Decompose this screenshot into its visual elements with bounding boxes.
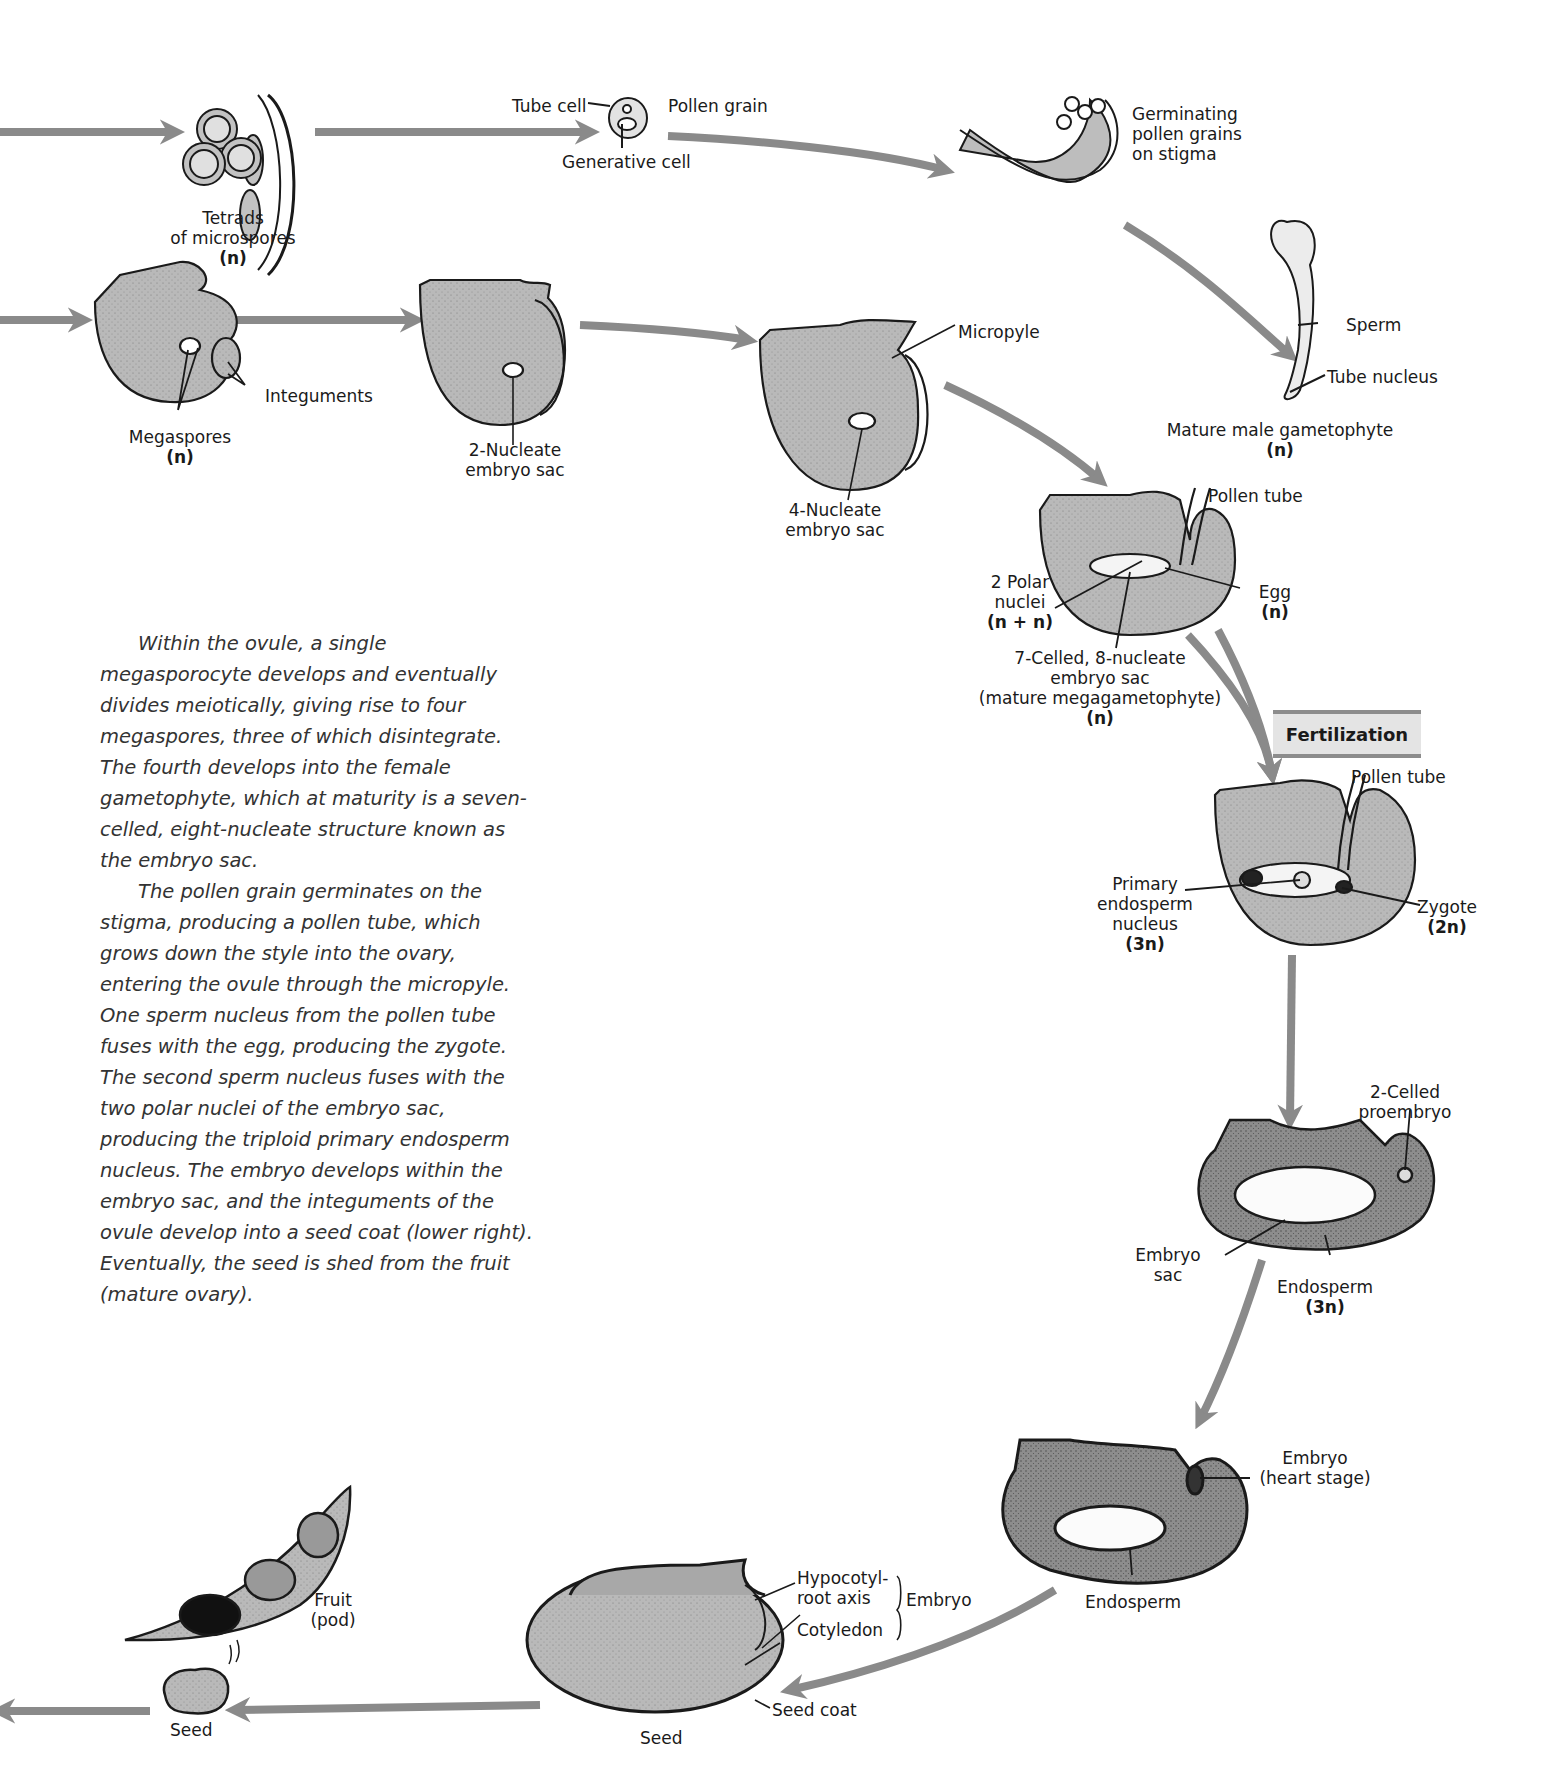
primary-endosperm-label: Primary endosperm nucleus (3n) — [1090, 874, 1200, 954]
arrow-to-dropped-seed — [235, 1705, 540, 1710]
fertilization-pollen-tube-label: Pollen tube — [1351, 767, 1446, 787]
proembryo-label: 2-Celled proembryo — [1350, 1082, 1460, 1122]
fertilization-banner: Fertilization — [1273, 710, 1421, 758]
pollen-grain-label: Pollen grain — [668, 96, 768, 116]
seed-coat-label: Seed coat — [772, 1700, 857, 1720]
heart-stage-endosperm-label: Endosperm — [1085, 1592, 1181, 1612]
caption-text: Within the ovule, a single megasporocyte… — [100, 628, 540, 1310]
endosperm-3n-label: Endosperm (3n) — [1270, 1277, 1380, 1317]
embryo-bracket-label: Embryo — [906, 1590, 972, 1610]
micropyle-label: Micropyle — [958, 322, 1040, 342]
arrow-to-stigma — [668, 136, 945, 170]
zygote-label: Zygote (2n) — [1412, 897, 1482, 937]
egg-label: Egg (n) — [1245, 582, 1305, 622]
four-nucleate-ovule-illustration — [760, 320, 955, 500]
germinating-pollen-label: Germinating pollen grains on stigma — [1132, 104, 1242, 164]
tube-cell-label: Tube cell — [512, 96, 586, 116]
generative-cell-label: Generative cell — [562, 152, 691, 172]
sperm-label: Sperm — [1346, 315, 1401, 335]
polar-nuclei-label: 2 Polar nuclei (n + n) — [980, 572, 1060, 632]
male-gametophyte-illustration — [1271, 221, 1325, 399]
fertilized-ovule-illustration — [1185, 775, 1420, 945]
stigma-illustration — [960, 97, 1118, 182]
two-nucleate-ovule-illustration — [420, 280, 565, 445]
arrow-to-proembryo — [1290, 955, 1292, 1120]
embryo-heart-stage-label: Embryo (heart stage) — [1255, 1448, 1375, 1488]
tetrads-label: Tetrads of microspores (n) — [168, 208, 298, 268]
tube-nucleus-label: Tube nucleus — [1327, 367, 1438, 387]
heart-stage-ovule-illustration — [1003, 1440, 1250, 1583]
four-nucleate-label: 4-Nucleate embryo sac — [770, 500, 900, 540]
cotyledon-label: Cotyledon — [797, 1620, 883, 1640]
arrow-to-4-nucleate — [580, 325, 748, 340]
hypocotyl-root-axis-label: Hypocotyl- root axis — [797, 1568, 888, 1608]
mature-male-gametophyte-label: Mature male gametophyte (n) — [1160, 420, 1400, 460]
fruit-pod-illustration — [125, 1487, 350, 1664]
dropped-seed-label: Seed — [170, 1720, 213, 1740]
two-nucleate-label: 2-Nucleate embryo sac — [450, 440, 580, 480]
pollen-grain-illustration — [588, 98, 647, 148]
embryo-sac-label: Embryo sac — [1128, 1245, 1208, 1285]
pollen-tube-label: Pollen tube — [1208, 486, 1303, 506]
caption-paragraph-2: The pollen grain germinates on the stigm… — [100, 876, 540, 1310]
caption-paragraph-1: Within the ovule, a single megasporocyte… — [100, 628, 540, 876]
arrow-to-mature-sac — [945, 385, 1100, 480]
integuments-label: Integuments — [265, 386, 373, 406]
megaspore-ovule-illustration — [95, 262, 245, 410]
proembryo-ovule-illustration — [1199, 1110, 1434, 1255]
seed-section-label: Seed — [640, 1728, 683, 1748]
arrow-to-male-gametophyte — [1125, 225, 1290, 355]
arrow-to-heart-stage — [1200, 1260, 1262, 1420]
mature-embryo-sac-label: 7-Celled, 8-nucleate embryo sac (mature … — [975, 648, 1225, 728]
dropped-seed-illustration — [164, 1669, 228, 1714]
mature-embryo-sac-ovule-illustration — [1040, 488, 1240, 648]
fruit-pod-label: Fruit (pod) — [298, 1590, 368, 1630]
megaspores-label: Megaspores (n) — [115, 427, 245, 467]
